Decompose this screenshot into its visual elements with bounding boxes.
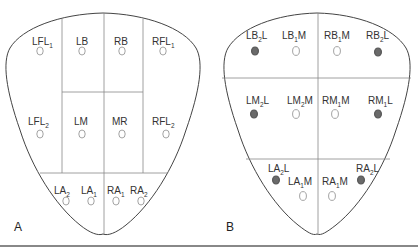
marker-open-icon — [293, 47, 300, 56]
tongue-outline-b — [224, 13, 410, 235]
marker-open-icon — [37, 130, 43, 138]
marker-open-icon — [79, 130, 85, 138]
marker-filled-icon — [375, 48, 382, 56]
svg-text:LB: LB — [76, 36, 89, 47]
svg-text:LFL1: LFL1 — [32, 36, 53, 49]
marker-open-icon — [119, 130, 125, 138]
svg-text:MR: MR — [112, 116, 128, 127]
svg-text:LA2: LA2 — [54, 185, 70, 198]
svg-text:LA1M: LA1M — [288, 176, 312, 189]
svg-text:LFL2: LFL2 — [28, 116, 49, 129]
svg-text:RA2L: RA2L — [356, 163, 380, 176]
region-a-rfl2: RFL2 — [152, 116, 175, 138]
svg-text:RM1M: RM1M — [322, 95, 350, 108]
region-b-lm2m: LM2M — [287, 95, 313, 118]
svg-text:RA1: RA1 — [107, 185, 125, 198]
region-b-rb1m: RB1M — [324, 30, 350, 55]
region-b-ra2l: RA2L — [356, 163, 380, 184]
marker-open-icon — [79, 47, 85, 55]
marker-open-icon — [138, 197, 144, 205]
region-b-rm1l: RM1L — [368, 95, 393, 118]
panel-a: LFL1 LB RB RFL1 LFL2 LM MR RFL2 — [6, 13, 200, 235]
panel-b: LB2L LB1M RB1M RB2L LM2L LM2M RM1M — [222, 13, 411, 235]
svg-text:RB1M: RB1M — [324, 30, 350, 43]
marker-open-icon — [119, 47, 125, 55]
marker-open-icon — [332, 110, 339, 119]
region-a-rb: RB — [114, 36, 128, 55]
marker-filled-icon — [358, 176, 365, 184]
region-a-ra1: RA1 — [107, 185, 125, 205]
marker-open-icon — [37, 47, 43, 55]
svg-text:RFL2: RFL2 — [152, 116, 175, 129]
svg-text:LB1M: LB1M — [282, 30, 306, 43]
region-a-ra2: RA2 — [130, 185, 148, 205]
region-a-la2: LA2 — [54, 185, 70, 205]
panel-label-b: B — [226, 220, 234, 234]
region-a-lb: LB — [76, 36, 89, 55]
region-b-lb2l: LB2L — [246, 30, 268, 55]
marker-open-icon — [88, 197, 94, 205]
svg-text:RA2: RA2 — [130, 185, 148, 198]
region-b-ra1m: RA1M — [322, 176, 348, 200]
marker-open-icon — [329, 192, 336, 201]
svg-text:LM2M: LM2M — [287, 95, 313, 108]
region-a-la1: LA1 — [81, 185, 97, 205]
svg-text:RB2L: RB2L — [366, 30, 390, 43]
region-a-lm: LM — [74, 116, 88, 138]
marker-open-icon — [334, 47, 341, 56]
marker-open-icon — [160, 47, 166, 55]
marker-open-icon — [163, 130, 169, 138]
marker-filled-icon — [252, 47, 259, 55]
panel-label-a: A — [14, 220, 22, 234]
region-b-rb2l: RB2L — [366, 30, 390, 56]
region-a-rfl1: RFL1 — [152, 36, 175, 55]
svg-text:RA1M: RA1M — [322, 176, 348, 189]
svg-text:LA1: LA1 — [81, 185, 97, 198]
svg-text:RM1L: RM1L — [368, 95, 393, 108]
region-b-lm2l: LM2L — [246, 95, 270, 118]
marker-open-icon — [300, 192, 307, 201]
marker-open-icon — [63, 197, 69, 205]
region-a-lfl2: LFL2 — [28, 116, 49, 138]
marker-filled-icon — [375, 110, 382, 118]
svg-text:LM2L: LM2L — [246, 95, 270, 108]
svg-text:LM: LM — [74, 116, 88, 127]
tongue-regions-figure: LFL1 LB RB RFL1 LFL2 LM MR RFL2 — [0, 0, 418, 250]
marker-open-icon — [113, 197, 119, 205]
svg-text:LA2L: LA2L — [268, 163, 290, 176]
region-a-lfl1: LFL1 — [32, 36, 53, 55]
region-b-rm1m: RM1M — [322, 95, 350, 118]
region-b-lb1m: LB1M — [282, 30, 306, 55]
marker-filled-icon — [273, 176, 280, 184]
region-a-mr: MR — [112, 116, 128, 138]
marker-open-icon — [293, 110, 300, 119]
svg-text:RB: RB — [114, 36, 128, 47]
region-b-la1m: LA1M — [288, 176, 312, 200]
region-b-la2l: LA2L — [268, 163, 290, 184]
marker-filled-icon — [251, 110, 258, 118]
svg-text:LB2L: LB2L — [246, 30, 268, 43]
